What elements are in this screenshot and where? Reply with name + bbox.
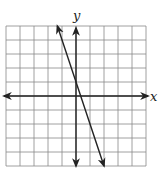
y-axis-label: y (72, 8, 81, 23)
coordinate-plane: x y (0, 0, 166, 176)
x-axis-label: x (150, 89, 158, 104)
axes (4, 28, 148, 166)
